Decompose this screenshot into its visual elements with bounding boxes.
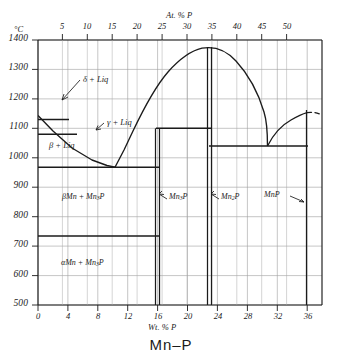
liquidus-mnp-branch bbox=[268, 113, 308, 146]
x-top-tick-45: 45 bbox=[251, 21, 273, 31]
y-tick-1300: 1300 bbox=[0, 62, 28, 72]
x-axis-top-label: At. % P bbox=[166, 10, 192, 20]
x-top-tick-30: 30 bbox=[176, 21, 198, 31]
y-tick-1400: 1400 bbox=[0, 33, 28, 43]
region-label-delta-liq: δ + Liq bbox=[83, 74, 108, 84]
region-label-mn2p-part1: Mn bbox=[221, 192, 232, 201]
y-tick-1100: 1100 bbox=[0, 121, 28, 131]
region-label-gamma-liq: γ + Liq bbox=[107, 117, 132, 127]
region-label-mn3p-part1: Mn bbox=[169, 192, 180, 201]
x-bottom-tick-20: 20 bbox=[177, 311, 199, 321]
x-bottom-tick-36: 36 bbox=[297, 311, 319, 321]
x-top-tick-50: 50 bbox=[276, 21, 298, 31]
y-tick-900: 900 bbox=[0, 180, 28, 190]
left-axis-ticks bbox=[32, 40, 38, 305]
x-bottom-tick-12: 12 bbox=[117, 311, 139, 321]
region-label-alphamn-mn3p-part1: αMn + Mn bbox=[61, 258, 96, 267]
region-label-mn3p: Mn3P bbox=[169, 192, 187, 201]
x-top-tick-5: 5 bbox=[51, 21, 73, 31]
region-label-betamn-mn3p-part2: P bbox=[100, 192, 105, 201]
region-label-mn3p-part2: P bbox=[183, 192, 188, 201]
liquidus-mn3p-dome bbox=[115, 48, 268, 168]
y-tick-1000: 1000 bbox=[0, 151, 28, 161]
y-tick-800: 800 bbox=[0, 210, 28, 220]
phase-diagram-figure: °C 1400 1300 1200 1100 1000 900 800 700 … bbox=[0, 0, 342, 361]
y-tick-1200: 1200 bbox=[0, 92, 28, 102]
x-bottom-tick-16: 16 bbox=[147, 311, 169, 321]
x-bottom-tick-24: 24 bbox=[207, 311, 229, 321]
x-bottom-tick-0: 0 bbox=[27, 311, 49, 321]
x-top-tick-15: 15 bbox=[101, 21, 123, 31]
figure-title: Mn–P bbox=[0, 336, 342, 353]
x-top-tick-40: 40 bbox=[226, 21, 248, 31]
diagram-canvas bbox=[0, 0, 342, 361]
x-top-tick-10: 10 bbox=[76, 21, 98, 31]
y-tick-500: 500 bbox=[0, 298, 28, 308]
x-bottom-tick-4: 4 bbox=[57, 311, 79, 321]
region-label-betamn-mn3p: βMn + Mn3P bbox=[62, 192, 104, 201]
region-label-mnp: MnP bbox=[264, 190, 280, 199]
x-top-tick-25: 25 bbox=[151, 21, 173, 31]
x-bottom-tick-8: 8 bbox=[87, 311, 109, 321]
x-top-tick-20: 20 bbox=[126, 21, 148, 31]
compound-lines bbox=[156, 47, 307, 305]
x-bottom-tick-32: 32 bbox=[267, 311, 289, 321]
region-label-mn2p-part2: P bbox=[235, 192, 240, 201]
region-label-beta-liq: β + Liq bbox=[49, 140, 75, 150]
region-label-alphamn-mn3p: αMn + Mn3P bbox=[61, 258, 104, 267]
x-axis-bottom-label: Wt. % P bbox=[148, 322, 176, 332]
leader-mnp bbox=[290, 196, 304, 202]
liquidus-dashed-extension bbox=[307, 112, 322, 115]
y-tick-600: 600 bbox=[0, 269, 28, 279]
region-label-mn2p: Mn2P bbox=[221, 192, 239, 201]
x-bottom-tick-28: 28 bbox=[237, 311, 259, 321]
x-top-tick-35: 35 bbox=[201, 21, 223, 31]
leader-delta-liq bbox=[62, 80, 80, 100]
region-label-betamn-mn3p-part1: βMn + Mn bbox=[62, 192, 97, 201]
top-axis-ticks bbox=[62, 34, 286, 40]
region-label-alphamn-mn3p-part2: P bbox=[99, 258, 104, 267]
y-tick-700: 700 bbox=[0, 239, 28, 249]
